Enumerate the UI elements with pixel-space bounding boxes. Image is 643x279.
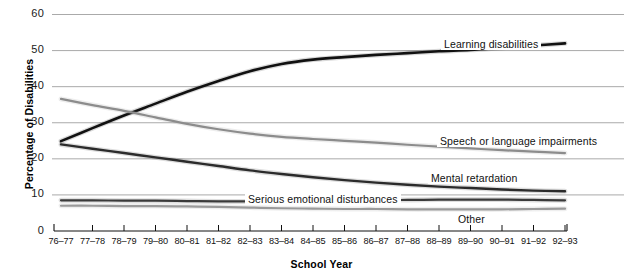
y-axis-title: Percentage of Disabilities <box>23 44 35 204</box>
x-axis-ticks <box>93 225 566 231</box>
series-label: Serious emotional disturbances <box>245 193 401 205</box>
series-label: Mental retardation <box>428 172 520 184</box>
line-chart: 0102030405060 76–7777–7878–7979–8080–818… <box>0 0 643 279</box>
y-tick-label: 0 <box>18 224 44 236</box>
series-lines <box>61 43 565 209</box>
series-label: Learning disabilities <box>441 38 541 50</box>
x-tick-label: 92–93 <box>547 236 583 246</box>
series-label: Other <box>455 213 488 225</box>
axis-lines <box>54 224 567 231</box>
x-axis-title: School Year <box>0 258 643 270</box>
y-tick-label: 60 <box>18 7 44 19</box>
series-line-halo <box>61 43 565 141</box>
series-label: Speech or language impairments <box>437 135 600 147</box>
